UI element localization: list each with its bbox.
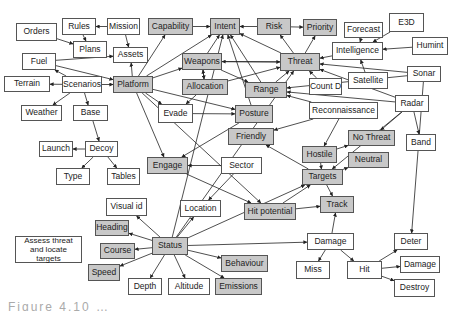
node-sonar: Sonar — [407, 66, 441, 82]
edge-status-to-course — [135, 248, 152, 250]
edge-status-to-altitude — [174, 255, 185, 278]
node-friendly: Friendly — [228, 128, 274, 145]
edge-decoy-to-tables — [108, 157, 117, 168]
edge-radar-to-nothreat — [381, 112, 402, 130]
node-emissions: Emissions — [215, 278, 262, 295]
edge-sector-to-location — [209, 174, 234, 200]
edge-hostile-to-nothreat — [337, 145, 348, 148]
edge-platform-to-assets — [131, 63, 132, 76]
node-status: Status — [152, 237, 188, 255]
edge-intelligence-to-threat — [320, 56, 332, 58]
node-visualid: Visual id — [106, 198, 147, 216]
node-intent: Intent — [210, 18, 240, 35]
node-hit: Hit — [347, 261, 382, 279]
node-track: Track — [320, 196, 354, 213]
edge-sonar-to-range — [287, 76, 407, 88]
node-threat: Threat — [280, 53, 320, 71]
edge-reconnaissance-to-friendly — [274, 119, 313, 130]
node-assets: Assets — [113, 47, 148, 63]
edge-damage_mid-to-hit — [341, 250, 354, 261]
edge-base-to-decoy — [93, 121, 99, 141]
node-capability: Capability — [148, 18, 193, 35]
node-location: Location — [180, 200, 221, 217]
node-depth: Depth — [128, 278, 162, 295]
node-scenarios: Scenarios — [62, 76, 102, 93]
edge-hit-to-damage_right — [382, 266, 400, 268]
node-terrain: Terrain — [4, 76, 50, 92]
node-tables: Tables — [107, 168, 140, 185]
node-heading: Heading — [95, 220, 129, 236]
edge-scenarios-to-base — [85, 93, 89, 105]
node-forecast: Forecast — [344, 22, 383, 38]
node-mission: Mission — [107, 18, 140, 35]
node-allocation: Allocation — [182, 79, 228, 95]
edge-allocation-to-weapons — [203, 70, 204, 79]
edge-mission-to-assets — [126, 35, 129, 47]
node-risk: Risk — [257, 18, 291, 35]
node-evade: Evade — [158, 104, 193, 123]
node-decoy: Decoy — [85, 141, 118, 157]
node-band: Band — [406, 134, 436, 151]
edge-hitpotential-to-track — [296, 206, 320, 209]
node-nothreat: No Threat — [348, 130, 395, 146]
node-rules: Rules — [62, 18, 96, 35]
edge-damage_mid-to-miss — [319, 250, 326, 261]
figure-caption: Figure 4.10 … — [8, 300, 110, 311]
node-priority: Priority — [303, 19, 337, 36]
edge-status-to-behaviour — [188, 250, 221, 258]
node-countd: Count D — [309, 78, 342, 95]
node-weather: Weather — [21, 105, 62, 121]
edge-satellite-to-intelligence — [361, 60, 365, 72]
node-course: Course — [100, 243, 135, 259]
node-sector: Sector — [221, 157, 262, 174]
edge-allocation-to-threat — [228, 67, 280, 81]
node-hostile: Hostile — [302, 146, 337, 163]
edge-status-to-depth — [150, 255, 164, 278]
edge-status-to-emissions — [185, 255, 224, 278]
node-range: Range — [245, 82, 287, 98]
edge-hitpotential-to-targets — [283, 185, 310, 203]
node-engage: Engage — [147, 157, 188, 174]
concept-map-canvas: OrdersRulesMissionPlansAssetsFuelTerrain… — [0, 0, 461, 311]
edge-damage_mid-to-track — [332, 213, 336, 233]
node-deter: Deter — [394, 233, 428, 250]
node-launch: Launch — [39, 141, 73, 157]
edge-scenarios-to-weather — [53, 93, 70, 105]
node-posture: Posture — [235, 105, 273, 123]
edge-threat-to-risk — [280, 35, 293, 53]
edge-hit-to-destroy — [382, 276, 394, 280]
edge-weapons-to-intent — [208, 35, 220, 53]
node-destroy: Destroy — [394, 279, 435, 297]
node-neutral: Neutral — [348, 152, 389, 168]
edge-reconnaissance-to-range — [287, 96, 311, 102]
edge-engage-to-hitpotential — [186, 174, 251, 203]
edge-hit-to-deter — [379, 250, 397, 261]
edge-threat-to-priority — [305, 36, 315, 53]
node-damage-mid: Damage — [307, 233, 354, 250]
edge-targets-to-track — [327, 185, 333, 196]
node-fuel: Fuel — [22, 53, 56, 70]
node-behaviour: Behaviour — [221, 255, 268, 272]
edge-status-to-location — [177, 217, 193, 237]
node-intelligence: Intelligence — [332, 42, 383, 60]
node-reconnaissance: Reconnaissance — [309, 102, 378, 119]
node-base: Base — [73, 105, 108, 121]
edge-humint-to-intelligence — [383, 47, 412, 49]
node-damage-right: Damage — [400, 256, 440, 273]
node-speed: Speed — [88, 264, 120, 281]
edge-status-to-damage_mid — [188, 242, 307, 245]
node-plans: Plans — [73, 41, 107, 58]
node-hitpotential: Hit potential — [244, 203, 296, 220]
node-humint: Humint — [412, 37, 448, 55]
edge-decoy-to-type — [82, 157, 93, 168]
node-assess: Assess threat and locate targets — [15, 236, 82, 263]
node-miss: Miss — [296, 261, 330, 279]
node-altitude: Altitude — [168, 278, 210, 295]
node-satellite: Satellite — [348, 72, 388, 89]
edge-orders-to-plans — [57, 39, 73, 44]
edge-status-to-visualid — [137, 216, 160, 237]
edge-radar-to-band — [414, 112, 419, 134]
node-targets: Targets — [302, 169, 343, 185]
node-weapons: Weapons — [182, 53, 222, 70]
edge-range-to-intent — [230, 35, 260, 82]
